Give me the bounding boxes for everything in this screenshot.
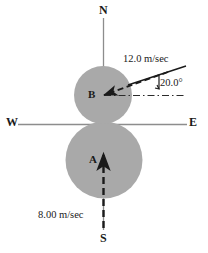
diagram-svg (0, 0, 208, 253)
velocity-b-label: 12.0 m/sec (123, 54, 169, 65)
physics-diagram-canvas: N S W E B A 12.0 m/sec 20.0° 8.00 m/sec (0, 0, 208, 253)
velocity-a-label: 8.00 m/sec (38, 210, 84, 221)
compass-label-north: N (99, 4, 108, 16)
ball-a-label: A (89, 154, 97, 165)
angle-label: 20.0° (160, 78, 183, 89)
ball-b-label: B (88, 89, 95, 100)
compass-label-south: S (100, 232, 107, 244)
compass-label-west: W (6, 116, 18, 128)
compass-label-east: E (189, 116, 197, 128)
